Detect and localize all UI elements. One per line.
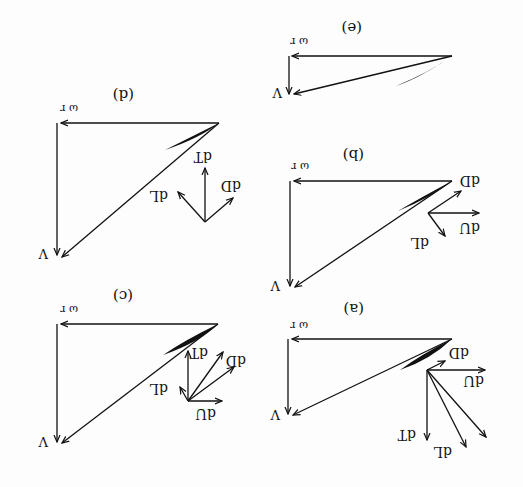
force-label: dD <box>449 345 469 361</box>
v-label: V <box>38 434 49 449</box>
airfoil-icon <box>398 181 452 211</box>
force-label: dL <box>434 444 452 460</box>
v-label: V <box>38 246 49 261</box>
panel-e <box>289 56 452 94</box>
omega-r-label: ω r <box>60 102 78 115</box>
panel-label: (e) <box>341 19 362 37</box>
panel-label: (a) <box>343 300 364 318</box>
force-label: dD <box>221 178 241 194</box>
panel-label: (d) <box>113 86 134 104</box>
diagram-svg: (e) ω r V (d) ω r V dT dD dL (b) ω r V d… <box>0 0 523 487</box>
force-label: dD <box>226 353 246 369</box>
force-label: dT <box>193 149 212 165</box>
omega-r-label: ω r <box>290 319 308 332</box>
airfoil-icon <box>396 56 452 86</box>
force-label: dD <box>460 173 480 189</box>
force-label: dT <box>189 345 208 361</box>
omega-r-label: ω r <box>291 160 309 173</box>
v-label: V <box>272 85 283 100</box>
velocity-triangle-diagram: (e) ω r V (d) ω r V dT dD dL (b) ω r V d… <box>0 0 523 487</box>
force-label: dL <box>150 188 168 204</box>
v-label: V <box>270 278 281 293</box>
omega-r-label: ω r <box>290 35 308 48</box>
airfoil-icon <box>400 339 452 370</box>
panel-d <box>57 123 233 257</box>
force-label: dL <box>411 235 429 251</box>
force-label: dT <box>397 427 416 443</box>
panel-label: (b) <box>343 146 364 164</box>
panel-c <box>57 324 234 443</box>
omega-r-label: ω r <box>60 303 78 316</box>
panel-label: (c) <box>113 287 133 305</box>
force-label: dU <box>195 406 216 422</box>
force-label: dL <box>150 381 168 397</box>
panel-b <box>290 181 479 287</box>
v-label: V <box>270 407 281 422</box>
force-label: dU <box>463 373 484 389</box>
force-label: dU <box>459 220 480 236</box>
